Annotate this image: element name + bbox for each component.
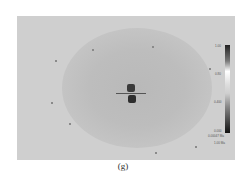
colorbar-label: 1.00	[215, 44, 221, 48]
colorbar-label: 0.400	[214, 100, 222, 104]
dot	[92, 49, 94, 51]
dot	[155, 152, 157, 154]
central-feature	[126, 84, 136, 106]
colorbar-unit: 1.00 Ma	[214, 141, 225, 145]
axis-line	[116, 93, 146, 94]
dot	[69, 123, 71, 125]
colorbar-label: 0.000	[214, 129, 222, 133]
image-panel	[17, 16, 235, 160]
dark-spot	[128, 95, 136, 103]
dot	[55, 60, 57, 62]
colorbar	[225, 45, 230, 133]
figure-caption: (g)	[0, 161, 246, 171]
dark-spot	[127, 84, 135, 92]
colorbar-unit: 0.00047 Ma	[208, 134, 224, 138]
colorbar-label: 0.80	[215, 72, 221, 76]
dot	[195, 146, 197, 148]
dot	[209, 68, 211, 70]
scatter-blob	[62, 28, 212, 148]
dot	[51, 102, 53, 104]
dot	[152, 46, 154, 48]
